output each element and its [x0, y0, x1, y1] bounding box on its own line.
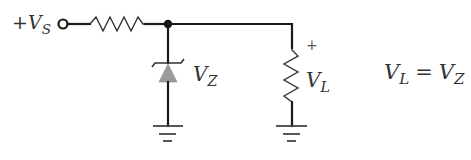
ground-load-icon [276, 126, 307, 141]
source-symbol: V [28, 11, 42, 33]
equation-operator: = [409, 60, 439, 84]
equation-rhs-subscript: Z [454, 70, 465, 88]
load-resistor-icon [284, 48, 298, 104]
zener-subscript: Z [207, 73, 217, 89]
load-polarity-plus: + [306, 38, 318, 52]
source-voltage-label: +VS [12, 13, 51, 36]
ground-zener-icon [153, 126, 183, 141]
load-symbol: V [306, 68, 320, 92]
zener-diode-icon [159, 64, 177, 82]
load-voltage-label: VL [306, 70, 330, 94]
zener-voltage-label: VZ [193, 64, 217, 88]
series-resistor-icon [90, 17, 145, 31]
equation-lhs-subscript: L [399, 70, 409, 88]
source-subscript: S [42, 21, 51, 37]
zener-symbol: V [193, 62, 207, 86]
wire-top-to-load [168, 24, 292, 48]
input-terminal-icon [59, 20, 68, 29]
equation-lhs-symbol: V [384, 60, 399, 84]
source-prefix: + [12, 11, 28, 33]
load-subscript: L [320, 79, 330, 95]
regulation-equation: VL=VZ [384, 62, 465, 87]
equation-rhs-symbol: V [439, 60, 454, 84]
